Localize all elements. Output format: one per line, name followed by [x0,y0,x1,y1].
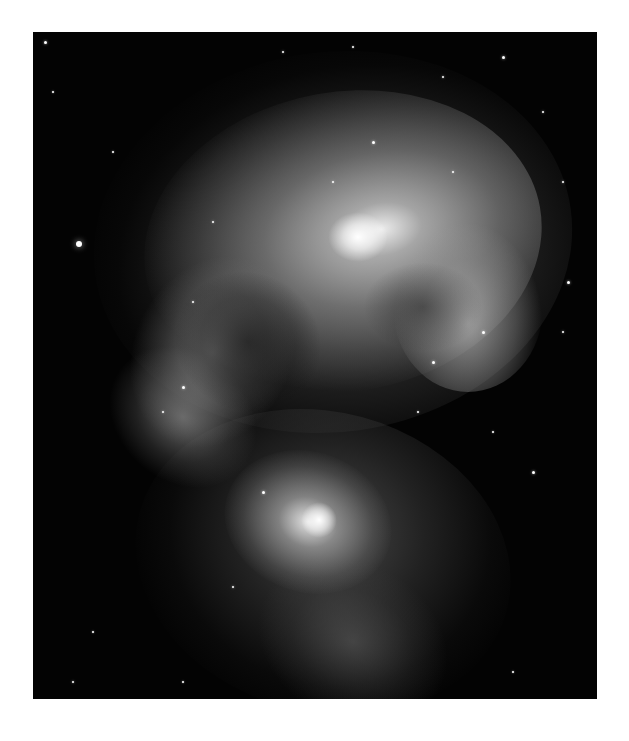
tidal-bridge [80,316,286,518]
star [282,51,284,53]
star [192,301,194,303]
upper-galaxy-right-arm [393,222,543,392]
star [162,411,164,413]
upper-galaxy-left-arm [98,228,328,477]
star [182,386,185,389]
star [442,76,444,78]
star [372,141,375,144]
star [92,631,94,633]
star [532,471,535,474]
star [482,331,485,334]
galaxy-photo [33,32,597,699]
star [112,151,114,153]
star [352,46,354,48]
star [332,181,334,183]
star [562,181,564,183]
star [567,281,570,284]
star [212,221,214,223]
dust-lane [148,244,348,440]
star [182,681,184,683]
star [72,681,74,683]
lower-galaxy-disk [204,427,412,617]
star [262,491,265,494]
upper-galaxy-disk [120,60,566,425]
lower-galaxy-core [301,502,337,538]
star [76,241,82,247]
lower-galaxy-halo [101,368,546,699]
star [232,586,234,588]
star [562,331,564,333]
lower-galaxy-tail [226,523,479,699]
star [542,111,544,113]
dust-lane-secondary [363,262,483,352]
star [492,431,494,433]
star [452,171,454,173]
upper-galaxy-halo [69,32,597,464]
star [44,41,47,44]
star [432,361,435,364]
star [512,671,514,673]
star [417,411,419,413]
star [52,91,54,93]
upper-galaxy-core [328,212,388,262]
star [502,56,505,59]
